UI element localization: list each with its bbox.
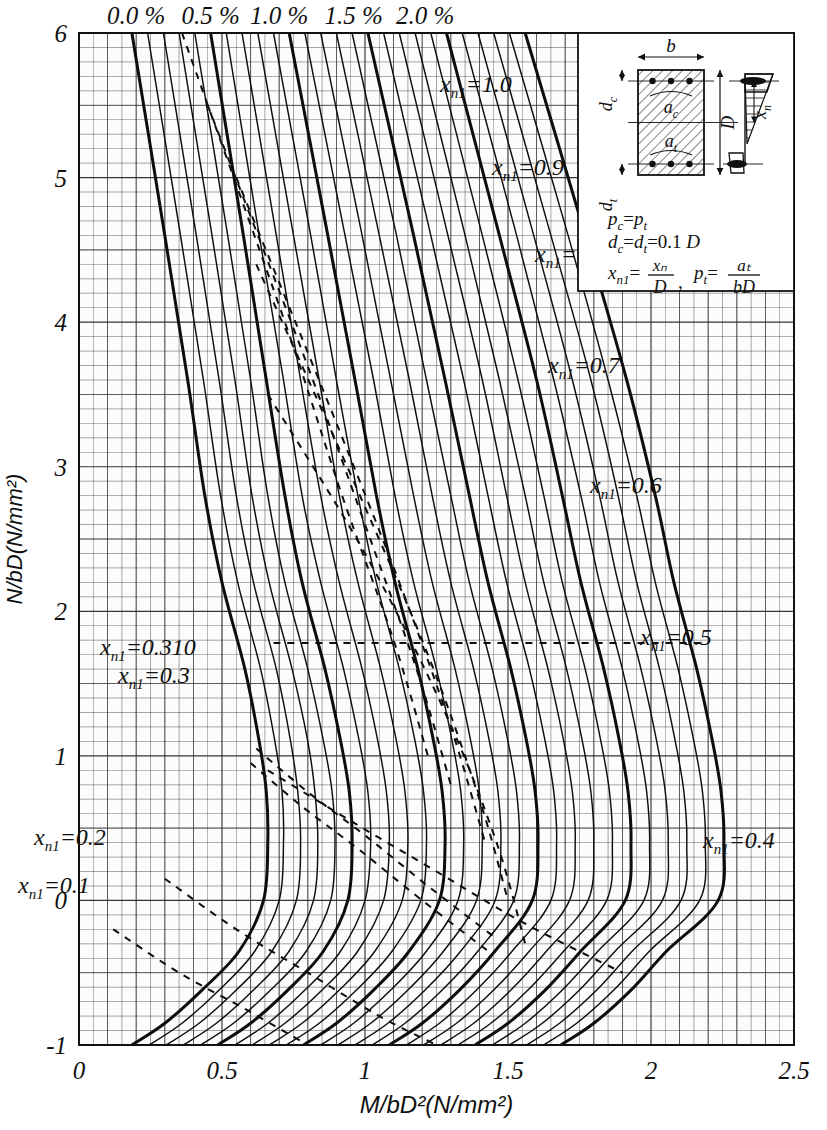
xn1-label: xn1=0.1 bbox=[17, 872, 90, 902]
pt-percent-label: 0.5 % bbox=[181, 2, 239, 29]
inset-dim-b: b bbox=[666, 35, 676, 56]
y-axis-title: N/bD(N/mm²) bbox=[2, 474, 27, 605]
interaction-diagram-svg: 00.511.522.56543210-1M/bD²(N/mm²)N/bD(N/… bbox=[0, 0, 827, 1130]
y-tick-label: 4 bbox=[55, 309, 68, 336]
x-tick-label: 0.5 bbox=[206, 1057, 237, 1084]
x-tick-label: 0 bbox=[73, 1057, 86, 1084]
x-tick-label: 1 bbox=[359, 1057, 372, 1084]
xn1-label: xn1=0.5 bbox=[639, 624, 712, 654]
xn1-label: xn1=0.9 bbox=[491, 154, 564, 184]
x-tick-label: 1.5 bbox=[492, 1057, 523, 1084]
svg-text:aₜ: aₜ bbox=[737, 256, 752, 275]
top-percent-labels: 0.0 %0.5 %1.0 %1.5 %2.0 % bbox=[107, 2, 454, 29]
svg-text:xn1=0.2: xn1=0.2 bbox=[33, 824, 106, 854]
svg-text:xn1=1.0: xn1=1.0 bbox=[439, 71, 512, 101]
xn1-label: xn1=1.0 bbox=[439, 71, 512, 101]
svg-text:xn1=0.1: xn1=0.1 bbox=[17, 872, 90, 902]
x-tick-label: 2 bbox=[645, 1057, 658, 1084]
svg-text:xn1=0.5: xn1=0.5 bbox=[639, 624, 712, 654]
pt-percent-label: 1.0 % bbox=[250, 2, 308, 29]
x-axis-title: M/bD²(N/mm²) bbox=[360, 1091, 513, 1118]
pt-percent-label: 1.5 % bbox=[324, 2, 382, 29]
xn1-label: xn1=0.2 bbox=[33, 824, 106, 854]
svg-text:xn1=0.9: xn1=0.9 bbox=[491, 154, 564, 184]
svg-text:xₙ: xₙ bbox=[652, 256, 668, 275]
inset-panel: bDdcdtacatxnpc=ptdc=dt=0.1 Dxn1=xₙD,pt=a… bbox=[578, 33, 794, 297]
y-tick-label: 5 bbox=[55, 165, 68, 192]
x-tick-label: 2.5 bbox=[778, 1057, 809, 1084]
svg-text:D: D bbox=[653, 277, 667, 297]
inset-dim-D: D bbox=[717, 115, 738, 130]
svg-text:,: , bbox=[678, 271, 683, 292]
y-tick-label: 3 bbox=[54, 454, 68, 481]
svg-text:xn1=0.6: xn1=0.6 bbox=[589, 472, 662, 502]
y-tick-label: 6 bbox=[55, 20, 68, 47]
xn1-label: xn1=0.3 bbox=[117, 662, 190, 692]
xn1-label: xn1=0.7 bbox=[547, 352, 621, 382]
svg-text:xn1=0.3: xn1=0.3 bbox=[117, 662, 190, 692]
pt-percent-label: 2.0 % bbox=[396, 2, 454, 29]
svg-text:xn1=0.4: xn1=0.4 bbox=[702, 827, 775, 857]
svg-text:xn1=0.7: xn1=0.7 bbox=[547, 352, 621, 382]
xn1-label: xn1=0.6 bbox=[589, 472, 662, 502]
pt-percent-label: 0.0 % bbox=[107, 2, 165, 29]
figure-root: 00.511.522.56543210-1M/bD²(N/mm²)N/bD(N/… bbox=[0, 0, 827, 1130]
svg-text:bD: bD bbox=[733, 277, 755, 297]
y-tick-label: -1 bbox=[46, 1032, 67, 1059]
y-tick-label: 2 bbox=[55, 598, 68, 625]
xn1-label: xn1=0.4 bbox=[702, 827, 775, 857]
y-tick-label: 1 bbox=[55, 743, 68, 770]
